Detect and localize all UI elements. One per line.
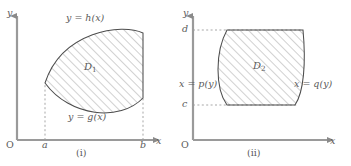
origin-label-i: O bbox=[6, 140, 14, 150]
origin-label-ii: O bbox=[181, 140, 189, 150]
tick-label-c: c bbox=[182, 99, 187, 109]
upper-curve-label-i: y = h(x) bbox=[66, 13, 104, 23]
panel-i-graphic bbox=[0, 0, 175, 166]
region-label-d2: D2 bbox=[253, 61, 266, 72]
region-label-d1: D1 bbox=[84, 62, 97, 73]
y-axis-label-i: y bbox=[7, 8, 12, 18]
tick-label-a: a bbox=[42, 140, 48, 150]
caption-panel-ii: (ii) bbox=[247, 148, 261, 158]
panel-type-i-region: y = h(x) y = g(x) D1 y x O a b (i) bbox=[0, 0, 175, 166]
region-label-d2-base: D bbox=[253, 60, 261, 71]
left-curve-label-ii: x = p(y) bbox=[179, 79, 217, 89]
right-curve-label-ii: x = q(y) bbox=[294, 79, 332, 89]
tick-label-b: b bbox=[140, 140, 146, 150]
region-label-d1-subscript: 1 bbox=[92, 65, 97, 74]
region-label-d1-base: D bbox=[84, 61, 92, 72]
x-axis-label-ii: x bbox=[330, 136, 335, 146]
region-label-d2-subscript: 2 bbox=[261, 64, 266, 73]
panel-type-ii-region: x = p(y) x = q(y) D2 y x O d c (ii) bbox=[175, 0, 351, 166]
x-axis-label-i: x bbox=[156, 136, 161, 146]
caption-panel-i: (i) bbox=[76, 148, 86, 158]
type-i-type-ii-regions-figure: y = h(x) y = g(x) D1 y x O a b (i) bbox=[0, 0, 351, 166]
tick-label-d: d bbox=[182, 24, 188, 34]
y-axis-label-ii: y bbox=[183, 8, 188, 18]
lower-curve-label-i: y = g(x) bbox=[68, 112, 106, 122]
